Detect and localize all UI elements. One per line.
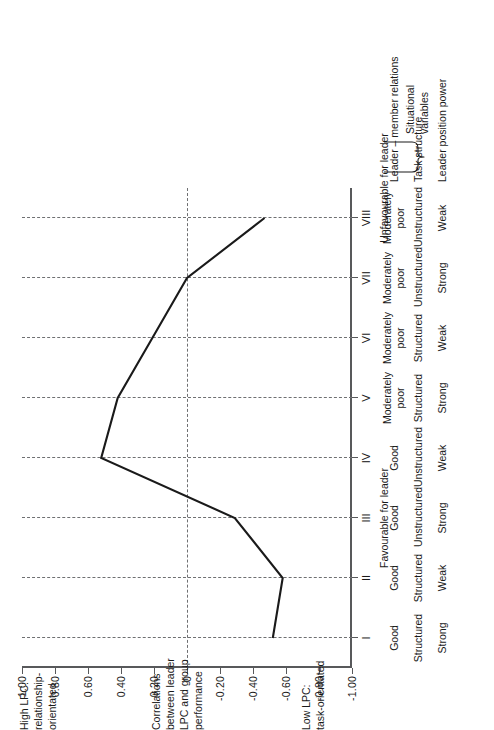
situational-cell: Weak [436, 309, 449, 367]
situational-cell: Good [388, 549, 401, 607]
situational-row: Leader position powerStrongWeakStrongWea… [430, 188, 454, 668]
situational-cell: Moderately poor [381, 309, 406, 367]
y-axis-tick [220, 668, 221, 674]
situational-cell: Structured [412, 369, 425, 427]
x-axis-tick [352, 577, 358, 578]
situational-variables-title: Situational variables [404, 85, 431, 134]
x-axis-tick [352, 217, 358, 218]
situational-row: Task structureStructuredStructuredUnstru… [406, 188, 430, 668]
situational-cell: Strong [436, 249, 449, 307]
y-axis-tick-label: 0.40 [115, 676, 127, 697]
situational-cell: Strong [436, 609, 449, 667]
situational-cell: Weak [436, 429, 449, 487]
y-axis-tick-label: -1.00 [346, 676, 358, 701]
curly-brace-icon [382, 140, 454, 174]
situational-cell: Structured [412, 309, 425, 367]
y-axis-tick [352, 668, 353, 674]
y-axis-tick [88, 668, 89, 674]
situational-cell: Good [388, 489, 401, 547]
y-axis-tick-label: -0.60 [280, 676, 292, 701]
situational-cell: Moderately poor [381, 249, 406, 307]
octant-label-V: V [360, 394, 372, 401]
y-note-low-lpc: Low LPC: task-orientated [300, 661, 328, 730]
situational-cell: Moderately poor [381, 189, 406, 247]
y-axis-tick [253, 668, 254, 674]
octant-label-IV: IV [360, 453, 372, 463]
x-axis-tick [352, 457, 358, 458]
situational-cell: Good [388, 429, 401, 487]
octant-label-II: II [360, 575, 372, 581]
situational-cell: Unstructured [412, 489, 425, 547]
y-note-correlations: Correlations between leader LPC and grou… [150, 658, 205, 730]
octant-label-III: III [360, 513, 372, 522]
figure-stage: 1.000.800.600.400.200-0.20-0.40-0.60-0.8… [0, 0, 494, 730]
situational-row: Leader – member relationsGoodGoodGoodGoo… [382, 188, 406, 668]
situational-cell: Strong [436, 369, 449, 427]
situational-cell: Structured [412, 609, 425, 667]
x-axis-tick [352, 277, 358, 278]
correlation-series [22, 188, 352, 668]
y-axis-tick [286, 668, 287, 674]
octant-label-VII: VII [360, 271, 372, 284]
situational-variables-table: Leader – member relationsGoodGoodGoodGoo… [382, 188, 454, 668]
octant-label-VIII: VIII [360, 210, 372, 227]
situational-variables-group: Situational variables [382, 44, 454, 174]
y-axis-tick-label: 0.60 [82, 676, 94, 697]
situational-cell: Unstructured [412, 189, 425, 247]
situational-cell: Strong [436, 489, 449, 547]
octant-label-I: I [360, 636, 372, 639]
x-axis-tick [352, 517, 358, 518]
y-note-high-lpc: High LPC: relationship- orientated [18, 673, 60, 730]
x-axis-tick [352, 337, 358, 338]
y-axis-tick-label: -0.20 [214, 676, 226, 701]
situational-cell: Unstructured [412, 249, 425, 307]
y-axis-tick [121, 668, 122, 674]
situational-cell: Structured [412, 549, 425, 607]
octant-label-VI: VI [360, 333, 372, 343]
situational-cell: Weak [436, 189, 449, 247]
situational-cell: Good [388, 609, 401, 667]
x-axis-tick [352, 637, 358, 638]
situational-cell: Unstructured [412, 429, 425, 487]
situational-cell: Weak [436, 549, 449, 607]
chart-plot-area: 1.000.800.600.400.200-0.20-0.40-0.60-0.8… [22, 188, 352, 668]
x-axis-tick [352, 397, 358, 398]
y-axis-tick-label: -0.40 [247, 676, 259, 701]
situational-cell: Moderately poor [381, 369, 406, 427]
